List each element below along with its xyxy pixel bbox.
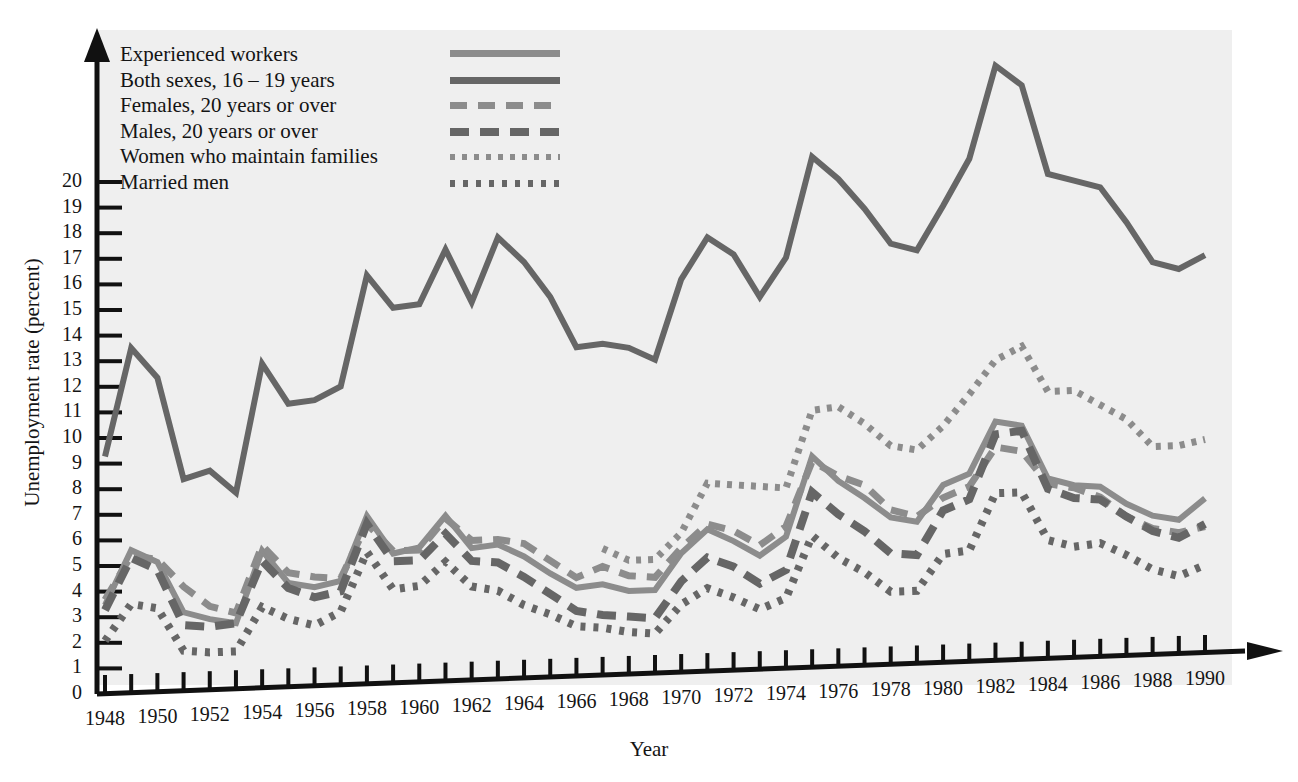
data-lines-group [105,66,1205,653]
series-line-0 [105,422,1205,624]
chart-canvas [0,0,1298,782]
chart-figure: Unemployment rate (percent) Year 0123456… [0,0,1298,782]
series-line-4 [603,346,1205,560]
series-line-1 [105,66,1205,493]
x-axis-arrow [1247,642,1283,660]
y-axis-arrow [84,28,110,62]
